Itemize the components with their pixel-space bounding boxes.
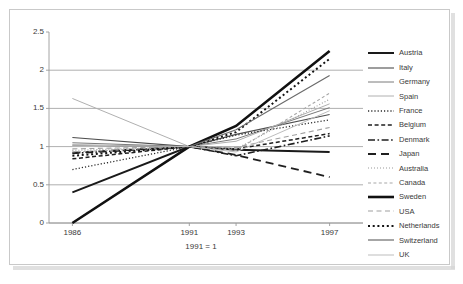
- legend-item-spain[interactable]: Spain: [368, 89, 463, 103]
- legend-item-australia[interactable]: Australia: [368, 161, 463, 175]
- x-tick-label: 1986: [50, 228, 94, 237]
- legend-swatch-belgium-icon: [368, 119, 394, 131]
- legend-swatch-spain-icon: [368, 90, 394, 102]
- legend-swatch-japan-icon: [368, 148, 394, 160]
- legend-item-canada[interactable]: Canada: [368, 176, 463, 190]
- x-tick-label: 1991: [167, 228, 211, 237]
- chart-figure: 00.511.522.5 1986199119931997 1991 = 1 A…: [0, 0, 463, 284]
- legend-label: Spain: [399, 93, 418, 101]
- legend-swatch-italy-icon: [368, 62, 394, 74]
- x-tick-label: 1997: [308, 228, 352, 237]
- data-series-group: [72, 51, 329, 223]
- legend-label: Italy: [399, 64, 413, 72]
- series-line-switzerland: [72, 76, 329, 147]
- gridlines: [49, 70, 363, 223]
- legend-swatch-usa-icon: [368, 205, 394, 217]
- legend-item-japan[interactable]: Japan: [368, 147, 463, 161]
- legend-label: Netherlands: [399, 222, 439, 230]
- legend-swatch-australia-icon: [368, 162, 394, 174]
- legend-swatch-netherlands-icon: [368, 220, 394, 232]
- chart-legend: AustriaItalyGermanySpainFranceBelgiumDen…: [368, 46, 463, 262]
- legend-swatch-switzerland-icon: [368, 234, 394, 246]
- legend-item-france[interactable]: France: [368, 104, 463, 118]
- card-shadow-bottom: [13, 266, 455, 270]
- legend-label: Japan: [399, 150, 419, 158]
- y-tick-label: 1.5: [14, 103, 44, 112]
- legend-label: USA: [399, 208, 414, 216]
- legend-item-belgium[interactable]: Belgium: [368, 118, 463, 132]
- legend-swatch-sweden-icon: [368, 191, 394, 203]
- legend-item-austria[interactable]: Austria: [368, 46, 463, 60]
- legend-label: Australia: [399, 165, 428, 173]
- y-tick-label: 0: [14, 218, 44, 227]
- legend-swatch-france-icon: [368, 105, 394, 117]
- y-tick-label: 2: [14, 65, 44, 74]
- x-tick-label: 1993: [214, 228, 258, 237]
- legend-swatch-austria-icon: [368, 47, 394, 59]
- legend-label: Belgium: [399, 121, 426, 129]
- legend-item-usa[interactable]: USA: [368, 204, 463, 218]
- legend-item-netherlands[interactable]: Netherlands: [368, 219, 463, 233]
- series-line-sweden: [72, 51, 329, 223]
- legend-swatch-germany-icon: [368, 76, 394, 88]
- legend-item-germany[interactable]: Germany: [368, 75, 463, 89]
- y-tick-label: 1: [14, 142, 44, 151]
- legend-label: Germany: [399, 78, 430, 86]
- y-tick-label: 0.5: [14, 180, 44, 189]
- legend-label: UK: [399, 251, 409, 259]
- legend-swatch-denmark-icon: [368, 134, 394, 146]
- legend-item-denmark[interactable]: Denmark: [368, 132, 463, 146]
- legend-label: Switzerland: [399, 237, 438, 245]
- legend-label: Canada: [399, 179, 425, 187]
- y-tick-label: 2.5: [14, 27, 44, 36]
- legend-swatch-uk-icon: [368, 249, 394, 261]
- legend-label: Denmark: [399, 136, 429, 144]
- legend-item-sweden[interactable]: Sweden: [368, 190, 463, 204]
- chart-card: 00.511.522.5 1986199119931997 1991 = 1 A…: [9, 9, 450, 265]
- legend-item-uk[interactable]: UK: [368, 247, 463, 261]
- legend-label: Austria: [399, 49, 422, 57]
- legend-swatch-canada-icon: [368, 177, 394, 189]
- legend-label: France: [399, 107, 422, 115]
- x-axis-title: 1991 = 1: [27, 242, 375, 251]
- legend-label: Sweden: [399, 193, 426, 201]
- legend-item-switzerland[interactable]: Switzerland: [368, 233, 463, 247]
- legend-item-italy[interactable]: Italy: [368, 60, 463, 74]
